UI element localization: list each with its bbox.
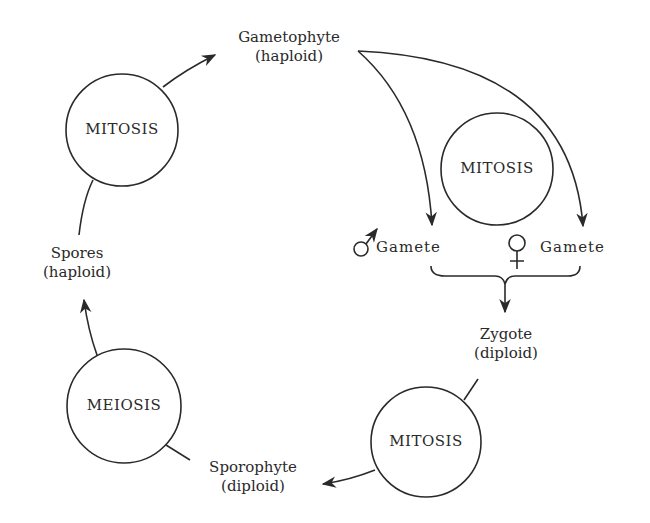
gametophyte-label: Gametophyte (haploid) — [222, 28, 356, 66]
mitosis-center-label: MITOSIS — [441, 159, 553, 177]
arrow-to-sporophyte — [323, 470, 375, 484]
sporophyte-ploidy: (diploid) — [192, 477, 314, 496]
zygote-ploidy: (diploid) — [456, 344, 556, 363]
life-cycle-diagram: Gametophyte (haploid) Spores (haploid) Z… — [0, 0, 650, 523]
arrow-to-female-gamete — [358, 51, 583, 226]
line-sporophyte-to-meiosis — [166, 445, 190, 460]
female-gamete-label: Gamete — [540, 238, 605, 256]
meiosis-label: MEIOSIS — [67, 396, 181, 414]
zygote-name: Zygote — [456, 325, 556, 344]
female-symbol-icon — [509, 235, 525, 269]
sporophyte-label: Sporophyte (diploid) — [192, 458, 314, 496]
sporophyte-name: Sporophyte — [192, 458, 314, 477]
mitosis-top-left-label: MITOSIS — [66, 120, 178, 138]
spores-label: Spores (haploid) — [22, 244, 132, 282]
male-gamete-label: Gamete — [376, 238, 441, 256]
mitosis-bottom-right-label: MITOSIS — [370, 432, 482, 450]
gametophyte-name: Gametophyte — [222, 28, 356, 47]
spores-name: Spores — [22, 244, 132, 263]
line-zygote-to-mitosis — [464, 379, 478, 400]
spores-ploidy: (haploid) — [22, 263, 132, 282]
male-symbol-icon — [354, 229, 377, 256]
zygote-label: Zygote (diploid) — [456, 325, 556, 363]
gametophyte-ploidy: (haploid) — [222, 47, 356, 66]
gamete-brace — [431, 266, 580, 284]
arrow-to-gametophyte — [163, 55, 215, 87]
line-spores-to-mitosis — [79, 180, 93, 235]
arrow-to-spores — [84, 300, 97, 355]
arrow-to-male-gamete — [358, 51, 432, 225]
